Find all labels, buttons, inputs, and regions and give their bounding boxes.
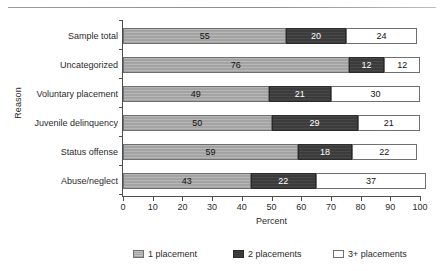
- x-axis-tick: [301, 197, 302, 201]
- legend-label: 1 placement: [148, 249, 197, 259]
- legend-label: 3+ placements: [348, 249, 407, 259]
- x-axis-tick: [420, 197, 421, 201]
- bar-segment-sample-total-3-placements: 24: [346, 28, 417, 44]
- bar-segment-voluntary-placement-1-placement: 49: [123, 86, 269, 102]
- y-axis-tick: [119, 78, 123, 79]
- bar-row: Sample total552024: [123, 28, 420, 44]
- bar-row: Juvenile delinquency502921: [123, 115, 420, 131]
- x-axis-tick: [390, 197, 391, 201]
- y-axis-line: [122, 20, 123, 197]
- x-axis-tick: [331, 197, 332, 201]
- bar-segment-voluntary-placement-3-placements: 30: [331, 86, 420, 102]
- x-axis-tick-label: 10: [138, 202, 168, 212]
- bar-segment-status-offense-2-placements: 18: [298, 144, 351, 160]
- legend-label: 2 placements: [248, 249, 302, 259]
- bar-segment-uncategorized-3-placements: 12: [384, 57, 420, 73]
- x-axis-tick-label: 80: [346, 202, 376, 212]
- stacked-bar-chart-figure: Reason 0102030405060708090100 Sample tot…: [0, 0, 441, 271]
- legend-item-3-placements[interactable]: 3+ placements: [333, 247, 407, 261]
- x-axis-tick-label: 0: [108, 202, 138, 212]
- x-axis-tick: [361, 197, 362, 201]
- bar-row: Uncategorized761212: [123, 57, 420, 73]
- bar-row: Status offense591822: [123, 144, 420, 160]
- category-label-voluntary-placement: Voluntary placement: [36, 86, 118, 102]
- category-label-abuse-neglect: Abuse/neglect: [61, 173, 118, 189]
- bar-segment-sample-total-1-placement: 55: [123, 28, 286, 44]
- bar-segment-uncategorized-2-placements: 12: [349, 57, 385, 73]
- y-axis-tick: [119, 136, 123, 137]
- plot-area: 0102030405060708090100 Sample total55202…: [123, 20, 420, 196]
- legend-item-1-placement[interactable]: 1 placement: [133, 247, 197, 261]
- y-axis-title: Reason: [13, 63, 23, 143]
- x-axis-tick-label: 20: [167, 202, 197, 212]
- y-axis-tick: [119, 165, 123, 166]
- x-axis-tick: [212, 197, 213, 201]
- bar-segment-juvenile-delinquency-2-placements: 29: [272, 115, 358, 131]
- legend-item-2-placements[interactable]: 2 placements: [233, 247, 302, 261]
- x-axis-tick: [182, 197, 183, 201]
- legend-swatch-1-placement-icon: [133, 250, 144, 258]
- x-axis-tick: [242, 197, 243, 201]
- bar-segment-status-offense-1-placement: 59: [123, 144, 298, 160]
- bar-segment-juvenile-delinquency-3-placements: 21: [358, 115, 420, 131]
- x-axis-tick-label: 40: [227, 202, 257, 212]
- bar-segment-sample-total-2-placements: 20: [286, 28, 345, 44]
- legend-swatch-2-placements-icon: [233, 250, 244, 258]
- bar-row: Voluntary placement492130: [123, 86, 420, 102]
- category-label-sample-total: Sample total: [68, 28, 118, 44]
- y-axis-tick: [119, 194, 123, 195]
- y-axis-tick: [119, 107, 123, 108]
- x-axis-tick-label: 70: [316, 202, 346, 212]
- header-rule: [8, 7, 436, 8]
- category-label-uncategorized: Uncategorized: [60, 57, 118, 73]
- x-axis-tick-label: 50: [257, 202, 287, 212]
- bar-segment-abuse-neglect-1-placement: 43: [123, 173, 251, 189]
- bar-segment-abuse-neglect-3-placements: 37: [316, 173, 426, 189]
- category-label-juvenile-delinquency: Juvenile delinquency: [34, 115, 118, 131]
- x-axis-tick-label: 90: [375, 202, 405, 212]
- bar-segment-status-offense-3-placements: 22: [352, 144, 417, 160]
- chart-legend: 1 placement2 placements3+ placements: [123, 247, 423, 263]
- bar-segment-voluntary-placement-2-placements: 21: [269, 86, 331, 102]
- bar-segment-uncategorized-1-placement: 76: [123, 57, 349, 73]
- category-label-status-offense: Status offense: [61, 144, 118, 160]
- y-axis-tick: [119, 20, 123, 21]
- x-axis-tick-label: 100: [405, 202, 435, 212]
- x-axis-tick: [153, 197, 154, 201]
- legend-swatch-3plus-placements-icon: [333, 250, 344, 258]
- x-axis-tick-label: 30: [197, 202, 227, 212]
- bar-segment-abuse-neglect-2-placements: 22: [251, 173, 316, 189]
- bar-segment-juvenile-delinquency-1-placement: 50: [123, 115, 272, 131]
- x-axis-tick: [123, 197, 124, 201]
- x-axis-title: Percent: [123, 216, 420, 226]
- x-axis-tick-label: 60: [286, 202, 316, 212]
- y-axis-tick: [119, 49, 123, 50]
- x-axis-tick: [272, 197, 273, 201]
- bar-row: Abuse/neglect432237: [123, 173, 420, 189]
